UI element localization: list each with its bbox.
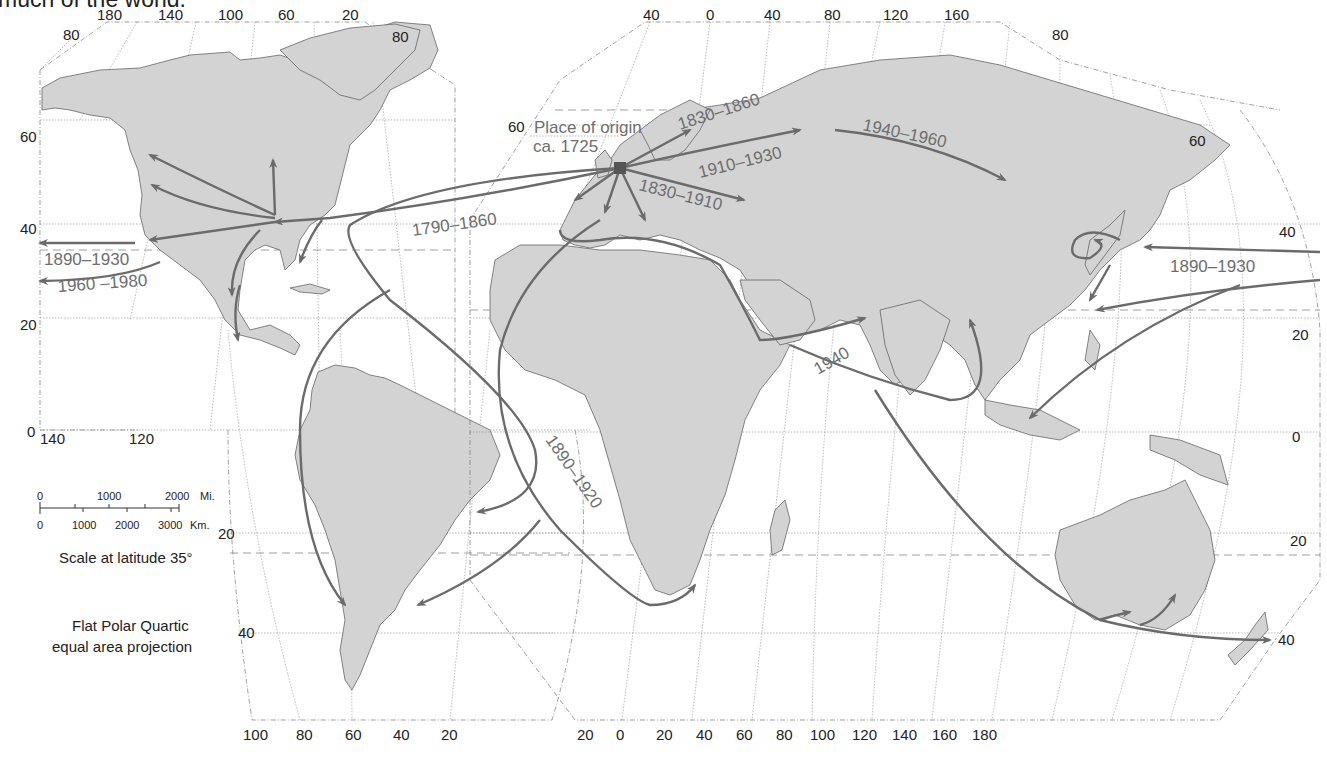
lon-label: 80	[824, 6, 841, 23]
lon-label: 140	[158, 6, 183, 23]
origin-date: ca. 1725	[533, 137, 598, 156]
route-pacific-taiwan	[1097, 280, 1320, 310]
new-guinea-island	[1150, 435, 1228, 485]
route-label-1890-1930-east: 1890–1930	[1170, 257, 1255, 276]
lat-label: 0	[27, 423, 35, 440]
origin-marker	[614, 162, 626, 174]
lon-label: 40	[696, 726, 713, 743]
lon-label: 40	[643, 6, 660, 23]
lon-label: 60	[736, 726, 753, 743]
route-label-1790-1860: 1790–1860	[411, 209, 498, 240]
lat-label: 40	[238, 624, 255, 641]
lon-label: 140	[892, 726, 917, 743]
lon-label: 0	[706, 6, 714, 23]
world-map: 80 180 140 100 60 20 80 60 40 20 0 140 1…	[0, 0, 1327, 759]
lat-label: 20	[218, 525, 235, 542]
lon-label: 120	[129, 430, 154, 447]
lat-label: 60	[508, 118, 525, 135]
scale-km-tick: 0	[37, 519, 43, 531]
lon-label: 120	[883, 6, 908, 23]
lat-label: 80	[392, 28, 409, 45]
scale-mi-unit: Mi.	[200, 490, 215, 502]
frame-right	[1240, 110, 1320, 640]
lat-label: 60	[20, 128, 37, 145]
scale-mi-tick: 1000	[97, 490, 121, 502]
lon-label: 80	[776, 726, 793, 743]
lat-label: 80	[1052, 26, 1069, 43]
scale-note: Scale at latitude 35°	[59, 549, 193, 566]
lat-label: 20	[1290, 532, 1307, 549]
lat-label: 0	[1292, 428, 1300, 445]
eastern-panel: 40 0 40 80 120 160 80 60 60 40 20 0 20 4…	[470, 6, 1320, 743]
lon-label: 40	[393, 726, 410, 743]
lat-label: 40	[1279, 223, 1296, 240]
lon-label: 100	[243, 726, 268, 743]
projection-name: Flat Polar Quartic	[72, 617, 189, 634]
lon-label: 20	[577, 726, 594, 743]
lon-label: 60	[278, 6, 295, 23]
lat-label: 20	[1292, 326, 1309, 343]
cuba-island	[290, 284, 330, 294]
lon-label: 80	[296, 726, 313, 743]
lon-label: 140	[40, 430, 65, 447]
lon-label: 180	[97, 6, 122, 23]
lon-label: 100	[218, 6, 243, 23]
lon-label: 120	[852, 726, 877, 743]
lat-label: 60	[1189, 132, 1206, 149]
projection-type: equal area projection	[52, 638, 192, 655]
lon-label: 20	[441, 726, 458, 743]
scale-km-unit: Km.	[190, 519, 210, 531]
lat-label: 40	[20, 220, 37, 237]
route-1890-1930-east-line	[1145, 247, 1320, 252]
scale-km-tick: 1000	[72, 519, 96, 531]
lat-label: 20	[20, 316, 37, 333]
route-label-1960-1980: 1960 –1980	[57, 271, 148, 296]
lon-label: 60	[345, 726, 362, 743]
lat-label: 40	[1278, 631, 1295, 648]
scale-mi-tick: 0	[37, 490, 43, 502]
lon-label: 20	[342, 6, 359, 23]
madagascar-island	[770, 500, 790, 555]
lon-label: 180	[972, 726, 997, 743]
route-label-1890-1930-west: 1890–1930	[44, 250, 129, 269]
origin-label: Place of origin	[534, 118, 642, 137]
lon-label: 160	[944, 6, 969, 23]
lon-label: 100	[810, 726, 835, 743]
scale-km-tick: 3000	[158, 519, 182, 531]
route-label-1890-1920: 1890–1920	[542, 431, 606, 512]
scale-mi-tick: 2000	[165, 490, 189, 502]
scale-legend: 0 1000 2000 Mi. 0 1000 2000 3000 Km. Sca…	[37, 490, 215, 655]
lon-label: 160	[932, 726, 957, 743]
lon-label: 40	[764, 6, 781, 23]
scale-km-tick: 2000	[115, 519, 139, 531]
lon-label: 0	[616, 726, 624, 743]
lat-label: 80	[63, 26, 80, 43]
lon-label: 20	[656, 726, 673, 743]
indonesia-islands	[985, 400, 1080, 440]
